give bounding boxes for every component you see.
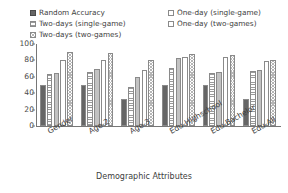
legend-column-left: Random AccuracyTwo-days (single-game)Two…	[30, 8, 126, 41]
bar	[223, 57, 229, 126]
bar-group	[117, 44, 158, 126]
chart-legend: Random AccuracyTwo-days (single-game)Two…	[30, 8, 286, 40]
bar	[54, 73, 60, 126]
legend-item-label: Random Accuracy	[39, 9, 105, 17]
legend-item[interactable]: One-day (single-game)	[168, 8, 261, 19]
bar	[135, 77, 141, 126]
legend-swatch-icon	[30, 10, 36, 16]
legend-item[interactable]: One-day (two-games)	[168, 19, 261, 30]
y-axis-ticks: 020406080100	[0, 44, 34, 126]
bar	[47, 74, 53, 126]
legend-swatch-icon	[168, 10, 174, 16]
bar	[128, 87, 134, 126]
bar	[250, 71, 256, 126]
legend-item-label: Two-days (two-games)	[39, 31, 121, 39]
bar	[209, 73, 215, 126]
bar	[257, 70, 263, 126]
bar	[121, 99, 127, 126]
bar	[108, 53, 114, 126]
legend-item[interactable]: Two-days (two-games)	[30, 30, 126, 41]
legend-swatch-icon	[168, 21, 174, 27]
bar-chart: Random AccuracyTwo-days (single-game)Two…	[0, 0, 288, 193]
x-axis-title: Demographic Attributes	[0, 172, 288, 181]
bar	[148, 60, 154, 126]
legend-item[interactable]: Two-days (single-game)	[30, 19, 126, 30]
legend-item-label: Two-days (single-game)	[39, 20, 126, 28]
bar	[40, 85, 46, 126]
x-axis-tick-labels: GenderAge-2Age-3Edu-HighschoolEdu-Bachel…	[36, 126, 280, 166]
bar	[169, 68, 175, 126]
bar	[176, 58, 182, 126]
bar	[162, 85, 168, 126]
legend-swatch-icon	[30, 21, 36, 27]
legend-item-label: One-day (single-game)	[177, 9, 261, 17]
bar	[81, 85, 87, 126]
legend-item[interactable]: Random Accuracy	[30, 8, 126, 19]
legend-item-label: One-day (two-games)	[177, 20, 257, 28]
bar	[94, 69, 100, 126]
legend-swatch-icon	[30, 32, 36, 38]
bar	[87, 72, 93, 126]
bar-group	[77, 44, 118, 126]
legend-column-right: One-day (single-game)One-day (two-games)	[168, 8, 261, 30]
